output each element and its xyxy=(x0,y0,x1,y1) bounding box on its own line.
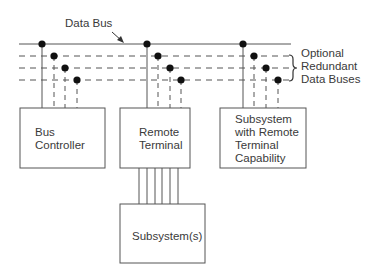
brace-icon xyxy=(289,55,297,81)
bus-controller-taps xyxy=(38,40,80,83)
bus-controller-label: Bus Controller xyxy=(35,126,85,152)
remote-terminal-taps xyxy=(143,40,184,83)
data-bus-arrow-icon xyxy=(112,32,124,43)
redundant-buses-label: Optional Redundant Data Buses xyxy=(301,47,360,86)
subsystem-rt-label: Subsystem with Remote Terminal Capabilit… xyxy=(235,113,299,165)
subsystems-label: Subsystem(s) xyxy=(132,230,202,243)
subsystem-rt-taps xyxy=(239,40,281,83)
data-bus-label: Data Bus xyxy=(65,17,112,30)
remote-terminal-label: Remote Terminal xyxy=(139,126,182,152)
rt-subsystem-links xyxy=(139,168,178,204)
